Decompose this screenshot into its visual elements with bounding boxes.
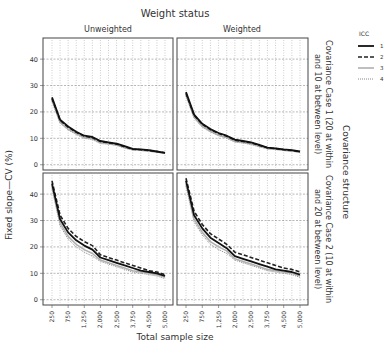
chart-title: Weight status [141, 8, 210, 19]
x-tick-label: 750 [198, 311, 205, 323]
y-tick-label: 40 [30, 56, 38, 64]
row-label-1: and 20 at between level) [313, 189, 322, 289]
row-title: Covariance structure [341, 125, 351, 220]
x-axis-label: Total sample size [136, 332, 214, 342]
x-tick-label: 4,500 [280, 311, 287, 328]
x-tick-label: 250 [48, 311, 55, 323]
x-tick-label: 2,500 [113, 311, 120, 328]
row-label-0: and 10 at between level) [313, 54, 322, 154]
row-label-1: Covariance Case 2 (10 at within [324, 175, 333, 303]
y-tick-label: 20 [30, 108, 38, 116]
legend-label: 4 [380, 76, 384, 82]
x-tick-label: 3,750 [129, 311, 136, 328]
legend: ICC1234 [358, 30, 384, 82]
legend-label: 2 [380, 54, 384, 60]
legend-label: 1 [380, 43, 384, 49]
x-tick-label: 5,000 [161, 311, 168, 328]
panel-3: 2507501,2502,0002,5003,7504,5005,000 [177, 173, 308, 328]
y-tick-label: 0 [34, 296, 38, 304]
panel-1 [177, 38, 308, 170]
panels-group: 0102030400102030402507501,2502,0002,5003… [30, 38, 308, 328]
y-axis-label: Fixed slope—CV (%) [4, 150, 14, 240]
x-tick-label: 1,250 [215, 311, 222, 328]
faceted-line-chart: Weight status Unweighted Weighted 010203… [0, 0, 390, 345]
x-tick-label: 3,750 [263, 311, 270, 328]
x-tick-label: 1,250 [80, 311, 87, 328]
panel-0: 010203040 [30, 38, 173, 170]
panel-2: 0102030402507501,2502,0002,5003,7504,500… [30, 173, 173, 328]
y-tick-label: 30 [30, 217, 38, 225]
x-tick-label: 4,500 [145, 311, 152, 328]
panel-frame [43, 173, 173, 305]
x-tick-label: 2,000 [96, 311, 103, 328]
panel-frame [177, 173, 308, 305]
row-label-0: Covariance Case 1 (20 at within [324, 40, 333, 168]
y-tick-label: 30 [30, 82, 38, 90]
y-tick-label: 0 [34, 161, 38, 169]
legend-title: ICC [359, 30, 369, 37]
x-tick-label: 5,000 [296, 311, 303, 328]
x-tick-label: 2,500 [247, 311, 254, 328]
x-tick-label: 2,000 [231, 311, 238, 328]
y-tick-label: 10 [30, 135, 38, 143]
column-label-weighted: Weighted [223, 25, 261, 34]
x-tick-label: 750 [64, 311, 71, 323]
series-line-icc-3 [52, 186, 165, 277]
x-tick-label: 250 [182, 311, 189, 323]
y-tick-label: 40 [30, 191, 38, 199]
y-tick-label: 20 [30, 243, 38, 251]
y-tick-label: 10 [30, 270, 38, 278]
row-labels-group: Covariance Case 1 (20 at withinand 10 at… [313, 40, 333, 303]
column-label-unweighted: Unweighted [84, 25, 132, 34]
series-line-icc-4 [186, 186, 300, 277]
legend-label: 3 [380, 65, 384, 71]
